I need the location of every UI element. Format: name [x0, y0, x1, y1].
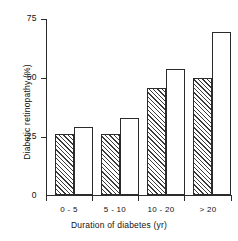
- y-tick-75: [41, 19, 46, 20]
- y-tick-label-0: 0: [11, 191, 37, 200]
- y-axis-title: Diabetic retinopathy (%): [22, 42, 32, 182]
- x-axis-line: [46, 195, 232, 196]
- x-tick-0: [46, 196, 47, 201]
- x-tick-1: [92, 196, 93, 201]
- y-tick-50: [41, 78, 46, 79]
- chart-figure: Diabetic retinopathy (%) 75 50 25 0 0 - …: [0, 0, 238, 241]
- y-axis-line: [46, 19, 47, 196]
- y-tick-25: [41, 137, 46, 138]
- bar-open-5-10: [120, 118, 139, 195]
- x-tick-3: [184, 196, 185, 201]
- y-tick-label-25: 25: [11, 132, 37, 141]
- x-tick-label-gt20: > 20: [181, 205, 235, 214]
- bar-open-0-5: [74, 127, 93, 195]
- y-tick-label-75: 75: [11, 14, 37, 23]
- bar-open-10-20: [166, 69, 185, 195]
- bar-hatched-gt20: [193, 78, 212, 195]
- x-tick-label-10-20: 10 - 20: [134, 205, 188, 214]
- bar-hatched-10-20: [147, 88, 166, 195]
- x-tick-4: [231, 196, 232, 201]
- bar-hatched-5-10: [101, 134, 120, 195]
- y-tick-label-50: 50: [11, 73, 37, 82]
- x-axis-title: Duration of diabetes (yr): [0, 220, 238, 230]
- bar-hatched-0-5: [55, 134, 74, 195]
- bar-open-gt20: [212, 32, 231, 195]
- x-tick-2: [138, 196, 139, 201]
